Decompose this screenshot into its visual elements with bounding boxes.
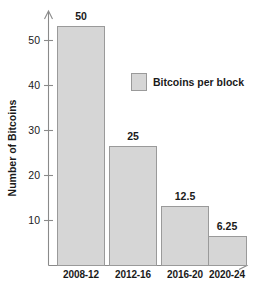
bar-value-label-2020-24: 6.25 bbox=[217, 220, 238, 232]
x-label-2008-12: 2008-12 bbox=[63, 269, 100, 280]
y-tick-label-10: 10 bbox=[28, 214, 40, 226]
y-tick-label-20: 20 bbox=[28, 169, 40, 181]
legend-label-bitcoins-per-block: Bitcoins per block bbox=[153, 76, 244, 88]
bar-value-label-2012-16: 25 bbox=[127, 130, 139, 142]
y-axis-title: Number of Bitcoins bbox=[6, 99, 18, 196]
chart-canvas: 10 20 30 40 50 Number of Bitcoins 50 25 … bbox=[0, 0, 254, 284]
legend-swatch-bitcoins-per-block bbox=[132, 74, 147, 91]
bar-value-label-2008-12: 50 bbox=[75, 10, 87, 22]
bar-value-label-2016-20: 12.5 bbox=[175, 190, 196, 202]
bar-2016-20[interactable] bbox=[162, 207, 209, 266]
x-label-2016-20: 2016-20 bbox=[167, 269, 204, 280]
bar-2012-16[interactable] bbox=[110, 147, 157, 266]
bar-chart: 10 20 30 40 50 Number of Bitcoins 50 25 … bbox=[0, 0, 254, 284]
x-label-2020-24: 2020-24 bbox=[209, 269, 246, 280]
y-tick-label-30: 30 bbox=[28, 124, 40, 136]
bar-2008-12[interactable] bbox=[58, 27, 105, 266]
bar-2020-24[interactable] bbox=[209, 237, 247, 266]
y-tick-label-50: 50 bbox=[28, 34, 40, 46]
y-tick-label-40: 40 bbox=[28, 79, 40, 91]
x-label-2012-16: 2012-16 bbox=[115, 269, 152, 280]
